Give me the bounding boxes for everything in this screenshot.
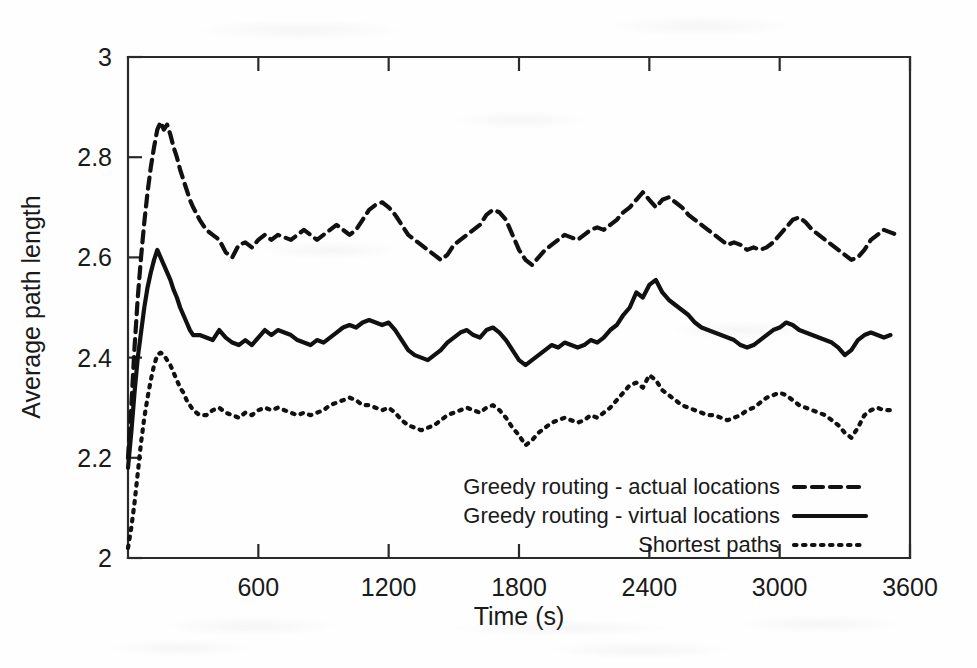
chart-legend: Greedy routing - actual locationsGreedy …	[463, 474, 866, 557]
legend-label: Shortest paths	[638, 532, 780, 557]
x-tick-label: 3600	[882, 573, 938, 601]
legend-label: Greedy routing - virtual locations	[463, 503, 780, 528]
legend-label: Greedy routing - actual locations	[463, 474, 780, 499]
line-chart: 22.22.42.62.83 60012001800240030003600 T…	[0, 0, 977, 668]
y-tick-label: 2	[98, 544, 112, 572]
y-tick-label: 2.4	[77, 344, 112, 372]
figure-canvas: 22.22.42.62.83 60012001800240030003600 T…	[0, 0, 977, 668]
y-tick-label: 2.6	[77, 243, 112, 271]
y-tick-label: 2.2	[77, 444, 112, 472]
x-tick-label: 1200	[361, 573, 417, 601]
y-tick-label: 3	[98, 43, 112, 71]
y-tick-label: 2.8	[77, 143, 112, 171]
x-tick-label: 1800	[491, 573, 547, 601]
x-tick-label: 2400	[622, 573, 678, 601]
y-tick-label-group: 22.22.42.62.83	[77, 43, 112, 572]
x-axis-title: Time (s)	[474, 602, 565, 630]
x-tick-label: 3000	[752, 573, 808, 601]
x-tick-label-group: 60012001800240030003600	[237, 573, 937, 601]
y-axis-title: Average path length	[17, 195, 45, 418]
series-line-solid	[128, 250, 890, 468]
series-line-dashed	[128, 122, 897, 458]
x-tick-label: 600	[237, 573, 279, 601]
